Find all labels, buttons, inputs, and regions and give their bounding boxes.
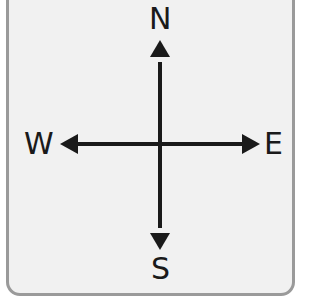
east-arrow-icon [242, 134, 260, 154]
north-arrow-icon [150, 40, 170, 57]
south-arrow-icon [150, 233, 170, 250]
north-label: N [149, 4, 171, 34]
east-label: E [264, 129, 283, 159]
west-label: W [24, 129, 54, 159]
west-arrow-icon [60, 134, 78, 154]
south-label: S [151, 254, 170, 284]
